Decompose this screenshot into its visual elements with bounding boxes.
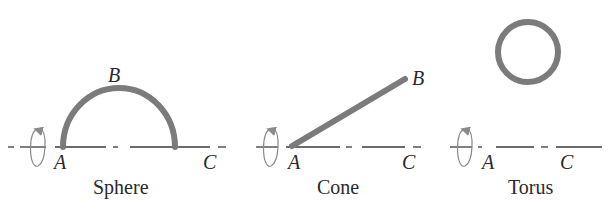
cone-generating-line	[292, 79, 405, 146]
sphere-generating-arc	[63, 88, 175, 147]
cone-panel: B A C Cone	[256, 67, 424, 198]
label-a: A	[52, 151, 67, 173]
label-b: B	[108, 64, 120, 86]
label-b: B	[412, 67, 424, 89]
caption-torus: Torus	[508, 176, 553, 198]
label-c: C	[203, 151, 217, 173]
label-c: C	[560, 151, 574, 173]
label-a: A	[480, 151, 495, 173]
sphere-panel: B A C Sphere	[8, 64, 226, 199]
torus-panel: A C Torus	[450, 22, 602, 198]
caption-cone: Cone	[317, 176, 359, 198]
label-c: C	[402, 151, 416, 173]
torus-generating-circle	[498, 22, 558, 82]
surfaces-of-revolution-diagram: B A C Sphere B A C Cone	[0, 0, 614, 211]
caption-sphere: Sphere	[93, 176, 149, 199]
label-a: A	[286, 151, 301, 173]
